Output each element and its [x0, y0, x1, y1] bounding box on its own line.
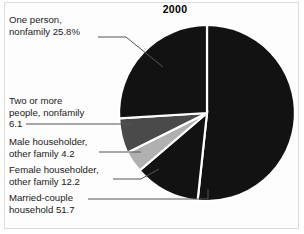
- label-line: Two or more: [9, 95, 84, 107]
- label-female-householder: Female householder, other family 12.2: [9, 164, 99, 187]
- label-two-or-more-nonfamily: Two or more people, nonfamily 6.1: [9, 95, 84, 130]
- label-line: people, nonfamily: [9, 107, 84, 119]
- pie-slice-married-couple: [198, 25, 295, 201]
- label-line: One person,: [9, 14, 80, 26]
- label-one-person-nonfamily: One person, nonfamily 25.8%: [9, 14, 80, 37]
- label-line: Married-couple: [9, 192, 75, 204]
- label-line: 6.1: [9, 118, 84, 130]
- label-line: other family 12.2: [9, 176, 99, 188]
- label-married-couple-household: Married-couple household 51.7: [9, 192, 75, 215]
- label-line: household 51.7: [9, 204, 75, 216]
- label-line: Male householder,: [9, 136, 87, 148]
- label-male-householder: Male householder, other family 4.2: [9, 136, 87, 159]
- label-line: other family 4.2: [9, 148, 87, 160]
- pie-slice-one-person-nonfamily: [119, 25, 207, 118]
- label-line: nonfamily 25.8%: [9, 26, 80, 38]
- label-line: Female householder,: [9, 164, 99, 176]
